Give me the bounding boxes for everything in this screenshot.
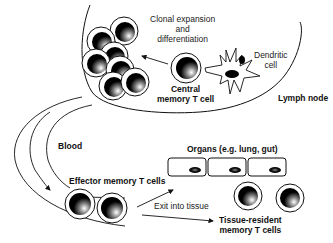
clonal-label-line1: Clonal expansion	[150, 14, 215, 24]
organs-label: Organs (e.g. lung, gut)	[187, 144, 278, 154]
lymph-node-label: Lymph node	[278, 93, 328, 103]
clonal-expansion-label: Clonal expansion and differentiation	[150, 14, 215, 44]
memory-t-cell-diagram: Clonal expansion and differentiation Den…	[0, 0, 333, 243]
blood-label: Blood	[58, 141, 82, 151]
clonal-expansion-arrow	[142, 56, 168, 64]
central-label-line1: Central	[157, 84, 214, 94]
effector-memory-label: Effector memory T cells	[69, 176, 165, 186]
expanded-t-cell-cluster	[82, 17, 149, 100]
dendritic-cell-label: Dendritic cell	[254, 50, 288, 70]
tissue-resident-label: Tissue-resident memory T cells	[219, 215, 282, 235]
central-memory-t-cell	[171, 53, 201, 83]
exit-into-tissue-label: Exit into tissue	[154, 201, 209, 211]
dendritic-label-line2: cell	[254, 60, 288, 70]
resident-label-line2: memory T cells	[219, 225, 282, 235]
tissue-resident-memory-t-cells	[234, 182, 304, 212]
central-label-line2: memory T cell	[157, 94, 214, 104]
central-memory-label: Central memory T cell	[157, 84, 214, 104]
exit-to-resident-arrow	[142, 215, 213, 221]
resident-label-line1: Tissue-resident	[219, 215, 282, 225]
clonal-label-line2: and	[150, 24, 215, 34]
dendritic-label-line1: Dendritic	[254, 50, 288, 60]
organ-epithelium	[168, 158, 286, 176]
clonal-label-line3: differentiation	[150, 34, 215, 44]
effector-memory-t-cells	[65, 189, 127, 223]
